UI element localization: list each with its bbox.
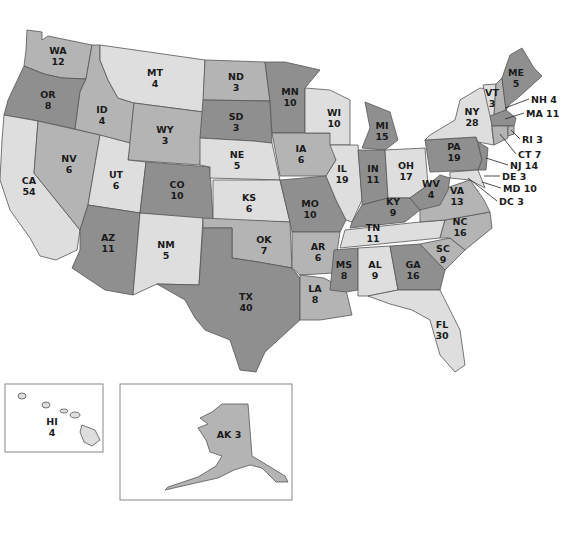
state-label-ms: MS 8 — [336, 259, 352, 281]
callout-label-ri: RI 3 — [522, 134, 543, 145]
state-label-mi: MI 15 — [375, 120, 388, 142]
state-label-nd: ND 3 — [228, 71, 244, 93]
state-label-in: IN 11 — [366, 163, 379, 185]
callout-label-ct: CT 7 — [518, 149, 541, 160]
state-label-sd: SD 3 — [229, 111, 244, 133]
state-label-wi: WI 10 — [327, 107, 341, 129]
state-label-oh: OH 17 — [398, 160, 414, 182]
state-label-or: OR 8 — [40, 89, 55, 111]
us-electoral-map — [0, 0, 567, 534]
state-label-sc: SC 9 — [436, 243, 450, 265]
state-ct[interactable] — [492, 126, 508, 145]
state-ny[interactable] — [425, 88, 494, 145]
state-label-pa: PA 19 — [447, 141, 460, 163]
state-label-me: ME 5 — [508, 67, 524, 89]
state-label-ga: GA 16 — [405, 259, 420, 281]
state-label-az: AZ 11 — [101, 232, 115, 254]
state-label-ia: IA 6 — [296, 143, 307, 165]
state-label-il: IL 19 — [335, 163, 348, 185]
state-label-nc: NC 16 — [453, 216, 468, 238]
state-label-ak: AK 3 — [217, 429, 242, 440]
state-label-la: LA 8 — [308, 283, 321, 305]
state-label-ks: KS 6 — [242, 192, 256, 214]
state-label-mn: MN 10 — [281, 86, 298, 108]
state-label-vt: VT 3 — [485, 87, 499, 109]
state-label-id: ID 4 — [96, 104, 107, 126]
state-ri[interactable] — [508, 126, 514, 136]
state-label-mt: MT 4 — [147, 67, 163, 89]
state-label-nv: NV 6 — [61, 153, 76, 175]
state-label-fl: FL 30 — [435, 319, 448, 341]
state-label-wv: WV 4 — [422, 178, 440, 200]
callout-label-de: DE 3 — [502, 171, 526, 182]
state-label-ca: CA 54 — [22, 175, 36, 197]
callout-label-md: MD 10 — [503, 183, 537, 194]
state-label-tn: TN 11 — [366, 222, 380, 244]
callout-label-nj: NJ 14 — [510, 160, 538, 171]
state-label-wa: WA 12 — [49, 45, 66, 67]
state-label-wy: WY 3 — [156, 124, 173, 146]
state-label-hi: HI 4 — [46, 416, 58, 438]
state-label-va: VA 13 — [450, 185, 464, 207]
state-label-ny: NY 28 — [465, 106, 480, 128]
state-label-ok: OK 7 — [256, 234, 271, 256]
state-fl[interactable] — [368, 290, 465, 372]
state-label-nm: NM 5 — [157, 239, 174, 261]
state-label-ne: NE 5 — [230, 149, 244, 171]
state-label-tx: TX 40 — [239, 291, 253, 313]
state-label-ar: AR 6 — [311, 241, 326, 263]
state-label-al: AL 9 — [368, 259, 381, 281]
callout-label-ma: MA 11 — [526, 108, 559, 119]
state-label-ut: UT 6 — [109, 169, 123, 191]
state-label-mo: MO 10 — [301, 198, 319, 220]
callout-label-dc: DC 3 — [499, 196, 524, 207]
state-label-ky: KY 9 — [386, 196, 400, 218]
alaska-inset-frame — [120, 384, 292, 500]
callout-label-nh: NH 4 — [531, 94, 557, 105]
state-label-co: CO 10 — [169, 179, 184, 201]
